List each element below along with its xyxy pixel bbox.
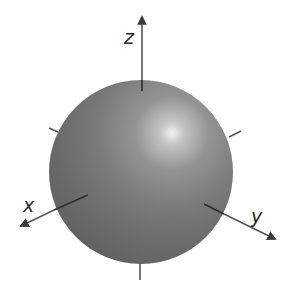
y-axis-negative-stub [229, 131, 241, 137]
x-axis-negative-stub [49, 128, 58, 132]
z-axis-label: z [123, 26, 135, 48]
y-axis-arrow [224, 214, 275, 239]
diagram-canvas: z x y [0, 0, 292, 295]
sphere [49, 80, 233, 264]
sphere-axes-diagram: z x y [0, 0, 292, 295]
x-axis-label: x [22, 194, 35, 216]
y-axis-label: y [250, 205, 263, 227]
